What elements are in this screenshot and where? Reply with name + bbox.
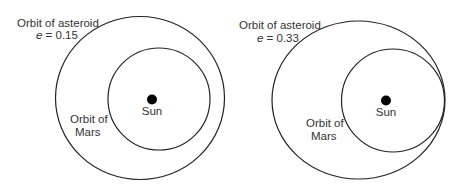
mars-orbit-label-line1: Orbit of [70, 113, 109, 125]
sun-label: Sun [376, 106, 396, 118]
mars-orbit-label-line1: Orbit of [306, 117, 345, 129]
eccentricity-label: e = 0.33 [257, 32, 299, 44]
mars-orbit [108, 48, 210, 150]
asteroid-orbit [272, 21, 445, 179]
eccentricity-label: e = 0.15 [36, 29, 78, 41]
sun-dot [147, 95, 157, 105]
asteroid-orbit-label: Orbit of asteroid [239, 19, 321, 31]
sun-label: Sun [142, 105, 162, 117]
mars-orbit-label-line2: Mars [311, 130, 337, 142]
diagram-high-eccentricity: Sun Orbit of asteroid e = 0.33 Orbit of … [239, 19, 445, 179]
orbit-diagrams: Sun Orbit of asteroid e = 0.15 Orbit of … [0, 0, 460, 187]
mars-orbit-label-line2: Mars [75, 126, 101, 138]
asteroid-orbit-label: Orbit of asteroid [17, 17, 99, 29]
asteroid-orbit [56, 17, 225, 180]
mars-orbit [342, 49, 445, 152]
diagram-low-eccentricity: Sun Orbit of asteroid e = 0.15 Orbit of … [17, 17, 225, 180]
sun-dot [381, 96, 391, 106]
